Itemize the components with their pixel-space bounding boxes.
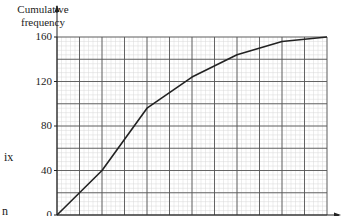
cumulative-frequency-plot (0, 0, 341, 216)
